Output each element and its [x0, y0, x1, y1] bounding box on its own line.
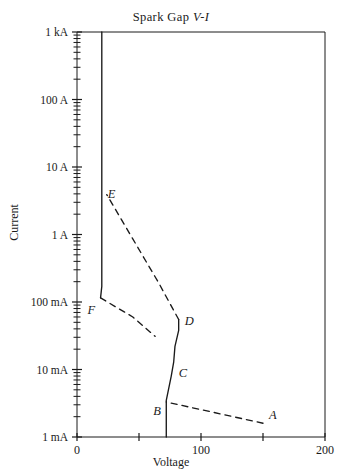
y-tick-label: 1 kA	[0, 26, 68, 38]
point-label-e: E	[108, 187, 116, 202]
series-4-dashed	[101, 298, 156, 336]
series-0-dashed	[166, 402, 263, 423]
y-tick-label: 10 mA	[0, 364, 68, 376]
point-label-d: D	[185, 314, 194, 329]
x-tick-label: 200	[316, 443, 334, 458]
y-tick-label: 100 A	[0, 94, 68, 106]
y-tick-label: 1 A	[0, 229, 68, 241]
y-tick-label: 10 A	[0, 161, 68, 173]
point-label-b: B	[153, 404, 161, 419]
x-tick-label: 0	[74, 443, 80, 458]
point-label-c: C	[179, 366, 187, 381]
series-1-solid	[166, 320, 178, 437]
y-tick-label: 100 mA	[0, 296, 68, 308]
chart-figure: Spark Gap V-I Current Voltage 1 mA10 mA1…	[0, 0, 342, 475]
series-2-dashed	[107, 195, 179, 320]
point-label-a: A	[269, 408, 277, 423]
x-tick-label: 100	[192, 443, 210, 458]
y-tick-label: 1 mA	[0, 431, 68, 443]
point-label-f: F	[88, 303, 96, 318]
series-3-solid	[101, 32, 102, 298]
